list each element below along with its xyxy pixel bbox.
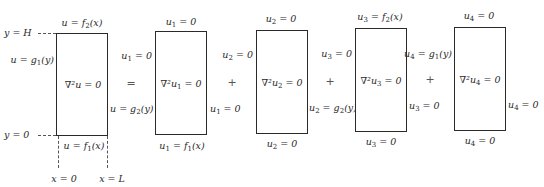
u1-bottom-bc: u1 = f1(x) xyxy=(159,141,204,153)
u4-left-bc: u4 = g1(y) xyxy=(404,49,452,61)
original-equation: ∇²u = 0 xyxy=(65,80,102,90)
equals-operator: = xyxy=(126,78,135,89)
u3-right-bc: u3 = 0 xyxy=(409,101,440,113)
original-left-bc: u = g1(y) xyxy=(11,55,54,67)
plus-operator-3: + xyxy=(425,74,434,85)
u1-equation: ∇²u1 = 0 xyxy=(160,79,201,91)
y-0-dash-line xyxy=(38,135,56,136)
y-equals-h-label: y = H xyxy=(4,28,32,38)
u2-left-bc: u2 = 0 xyxy=(222,50,253,62)
u3-equation: ∇²u3 = 0 xyxy=(360,76,401,88)
u4-top-bc: u4 = 0 xyxy=(464,11,495,23)
u2-top-bc: u2 = 0 xyxy=(266,14,297,26)
u1-right-bc: u1 = 0 xyxy=(210,104,241,116)
u3-top-bc: u3 = f2(x) xyxy=(357,12,402,24)
original-right-bc: u = g2(y) xyxy=(110,104,153,116)
u2-bottom-bc: u2 = 0 xyxy=(267,139,298,151)
u4-right-bc: u4 = 0 xyxy=(508,100,539,112)
u4-equation: ∇²u4 = 0 xyxy=(459,75,500,87)
u2-equation: ∇²u2 = 0 xyxy=(261,78,302,90)
u2-right-bc: u2 = g2(y) xyxy=(309,103,357,115)
plus-operator-2: + xyxy=(325,76,334,87)
u1-top-bc: u1 = 0 xyxy=(166,17,197,29)
x-0-dash-line xyxy=(58,136,59,168)
original-top-bc: u = f2(x) xyxy=(62,18,103,30)
u1-left-bc: u1 = 0 xyxy=(121,51,152,63)
u4-bottom-bc: u4 = 0 xyxy=(465,136,496,148)
y-h-dash-line xyxy=(38,33,56,34)
x-equals-l-label: x = L xyxy=(99,174,125,184)
x-equals-0-label: x = 0 xyxy=(51,174,76,184)
x-l-dash-line xyxy=(107,136,108,168)
plus-operator-1: + xyxy=(227,77,236,88)
y-equals-0-label: y = 0 xyxy=(4,130,29,140)
original-bottom-bc: u = f1(x) xyxy=(64,141,105,153)
u3-left-bc: u3 = 0 xyxy=(321,49,352,61)
u3-bottom-bc: u3 = 0 xyxy=(366,137,397,149)
